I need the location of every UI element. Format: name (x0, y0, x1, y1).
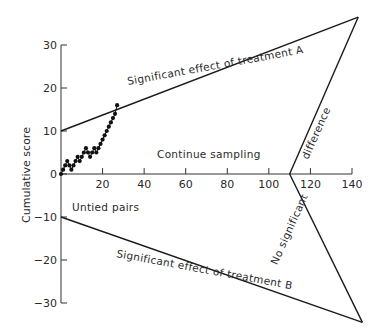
data-point (107, 125, 111, 129)
data-point (103, 133, 107, 137)
x-tick-label: 80 (220, 178, 234, 191)
data-point (67, 163, 71, 167)
data-point (100, 138, 104, 142)
data-point (115, 103, 119, 107)
data-point (65, 159, 69, 163)
x-tick-label: 100 (258, 178, 279, 191)
y-axis-title: Cumulative score (20, 127, 33, 223)
x-tick-label: 120 (300, 178, 321, 191)
y-tick-label: 20 (43, 82, 57, 95)
sequential-analysis-chart: 3020100−10−20−3020406080100120140 Cumula… (0, 0, 380, 335)
data-point (92, 146, 96, 150)
data-point (105, 129, 109, 133)
upper-boundary-label: Significant effect of treatment A (126, 43, 305, 87)
continue-sampling-label: Continue sampling (157, 148, 261, 160)
data-point (63, 163, 67, 167)
y-tick-label: −20 (34, 254, 57, 267)
data-point (59, 172, 63, 176)
y-tick-label: −10 (34, 211, 57, 224)
lower-boundary-label: Significant effect of treatment B (116, 247, 294, 291)
data-point (109, 120, 113, 124)
data-point (78, 159, 82, 163)
annotations: Cumulative score Significant effect of t… (20, 43, 333, 291)
data-point (98, 142, 102, 146)
x-tick-label: 20 (96, 178, 110, 191)
data-point (111, 116, 115, 120)
no-significant-label: No significant (268, 192, 310, 266)
data-point (69, 168, 73, 172)
data-point (80, 155, 84, 159)
x-tick-label: 140 (342, 178, 363, 191)
data-series (59, 103, 119, 176)
data-point (61, 168, 65, 172)
data-point (76, 155, 80, 159)
data-point (71, 163, 75, 167)
boundary-upper (61, 17, 358, 131)
y-tick-label: 30 (43, 39, 57, 52)
data-point (86, 150, 90, 154)
boundary-right-upper (290, 17, 359, 174)
untied-pairs-label: Untied pairs (72, 201, 139, 213)
x-tick-label: 40 (137, 178, 151, 191)
y-tick-label: 10 (43, 125, 57, 138)
data-point (96, 146, 100, 150)
data-point (82, 150, 86, 154)
data-point (94, 150, 98, 154)
data-point (73, 159, 77, 163)
y-tick-label: 0 (50, 168, 57, 181)
data-point (90, 150, 94, 154)
data-point (88, 155, 92, 159)
y-tick-label: −30 (34, 297, 57, 310)
x-tick-label: 60 (179, 178, 193, 191)
data-point (84, 146, 88, 150)
data-point (113, 112, 117, 116)
